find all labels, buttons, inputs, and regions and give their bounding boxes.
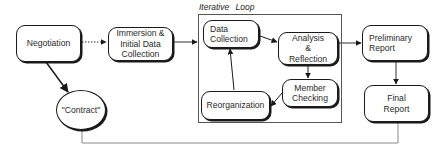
node-contract: "Contract" <box>56 90 106 130</box>
node-member-checking: Member Checking <box>282 79 338 107</box>
node-reorganization: Reorganization <box>201 91 270 120</box>
node-data-collection: Data Collection <box>203 20 259 48</box>
arrow-negotiation-to-contract <box>46 62 68 92</box>
node-final-report: Final Report <box>364 85 429 122</box>
node-preliminary-report: Preliminary Report <box>362 25 428 61</box>
node-negotiation: Negotiation <box>16 25 81 62</box>
line-contract-to-final <box>82 123 398 143</box>
process-diagram: Iterative Loop Negotiation Immersion & I… <box>0 0 444 151</box>
node-immersion: Immersion & Initial Data Collection <box>108 27 173 61</box>
node-analysis-reflection: Analysis & Reflection <box>278 32 338 65</box>
iterative-loop-label: Iterative Loop <box>199 2 255 12</box>
